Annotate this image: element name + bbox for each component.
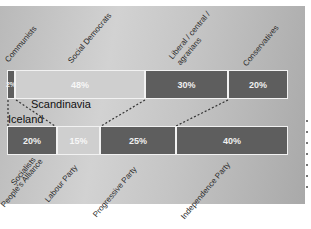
bar-independence-party: 40% <box>176 126 288 155</box>
bar-labour-party: 15% <box>57 126 100 155</box>
bar-progressive-party: 25% <box>100 126 176 155</box>
value-label: 20% <box>23 136 41 146</box>
value-label: 40% <box>223 136 241 146</box>
bar-socialists: 20% <box>7 126 57 155</box>
page-edge-marks <box>306 120 309 210</box>
value-label: 15% <box>69 136 87 146</box>
value-label: 25% <box>129 136 147 146</box>
